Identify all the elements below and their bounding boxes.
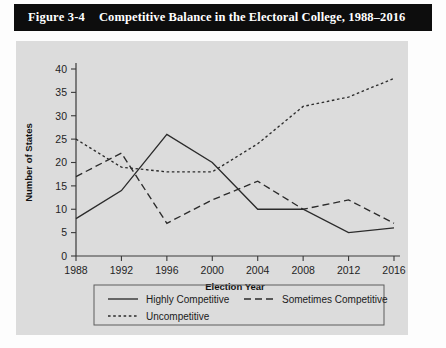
legend-label-1: Sometimes Competitive [282,294,388,305]
x-tick-label: 2008 [291,264,315,276]
y-tick-label: 5 [61,226,67,238]
legend-label-2: Uncompetitive [146,311,210,322]
figure-title-band: Figure 3-4 Competitive Balance in the El… [14,4,432,31]
x-tick-label: 1992 [110,264,134,276]
x-tick-label: 2004 [246,264,270,276]
x-tick-label: 2012 [337,264,361,276]
figure-title: Competitive Balance in the Electoral Col… [99,10,406,25]
series-line-0 [76,134,394,232]
y-tick-label: 0 [61,250,67,262]
x-axis-title: Election Year [205,281,265,292]
line-chart: 0510152025303540198819921996200020042008… [16,41,408,335]
y-tick-label: 35 [55,86,67,98]
y-tick-label: 30 [55,110,67,122]
legend-label-0: Highly Competitive [146,294,230,305]
y-tick-label: 10 [55,203,67,215]
y-tick-label: 20 [55,156,67,168]
chart-panel: 0510152025303540198819921996200020042008… [16,41,408,335]
y-tick-label: 40 [55,63,67,75]
y-tick-label: 25 [55,133,67,145]
x-tick-label: 1996 [155,264,179,276]
x-tick-label: 1988 [64,264,88,276]
y-axis-title: Number of States [23,123,34,202]
x-tick-label: 2000 [201,264,225,276]
figure-container: Figure 3-4 Competitive Balance in the El… [0,0,446,348]
x-tick-label: 2016 [382,264,406,276]
y-tick-label: 15 [55,180,67,192]
figure-number: Figure 3-4 [28,10,85,25]
